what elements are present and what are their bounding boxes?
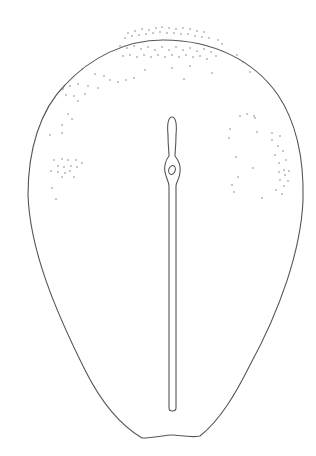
seed-outline [28, 40, 303, 438]
specimen-illustration [0, 0, 316, 456]
central-slit [165, 117, 181, 411]
specimen-drawing [0, 0, 316, 456]
stipple-top [119, 26, 250, 79]
stipple-left-cluster [50, 158, 82, 199]
stipple-right [228, 113, 289, 198]
stipple-left-shoulder [49, 68, 134, 135]
